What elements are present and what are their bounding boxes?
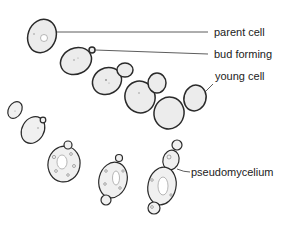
label-bud-forming: bud forming	[214, 49, 272, 60]
leader-young-cell	[205, 84, 213, 92]
parent-cell	[23, 15, 61, 57]
separated-cell	[150, 94, 187, 133]
label-pseudomycelium: pseudomycelium	[191, 167, 274, 178]
leader-bud-forming	[95, 50, 208, 54]
label-parent-cell: parent cell	[214, 27, 265, 38]
vacuolated-cell	[45, 141, 83, 185]
small-cell	[5, 99, 25, 121]
label-young-cell: young cell	[215, 71, 265, 82]
double-budding-cell	[95, 155, 131, 206]
small-budding-cell	[16, 112, 49, 147]
bud-forming-cell	[56, 42, 96, 79]
leader-pseudomycelium	[177, 169, 190, 172]
young-cell	[181, 83, 209, 114]
pseudomycelium-chain	[144, 140, 182, 214]
